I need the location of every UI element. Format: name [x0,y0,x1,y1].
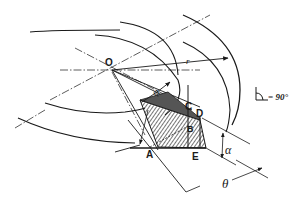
mid-arc [120,22,178,75]
label-a: A [146,149,153,160]
right-angle-icon [256,87,268,100]
theta-label: θ [222,176,229,191]
alpha-dimension [202,118,250,165]
geometry-diagram: r φ α θ O A B C D E = 90° [0,0,306,198]
radius-label: r [186,56,190,66]
alpha-label: α [225,143,232,157]
label-c: C [185,101,192,112]
right-angle-legend: = 90° [268,92,288,102]
radius-line [112,58,228,70]
label-b: B [187,124,194,134]
line-a-arrow [140,110,148,144]
label-e: E [192,151,199,162]
label-origin: O [105,57,113,68]
label-d: D [196,108,203,119]
